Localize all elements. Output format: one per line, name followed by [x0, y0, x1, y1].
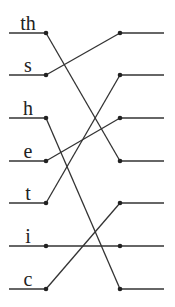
permutation-diagram: thshetic: [0, 0, 175, 307]
left-node-dot: [44, 31, 49, 36]
left-label: e: [24, 140, 33, 162]
left-node-dot: [44, 201, 49, 206]
left-label: c: [24, 268, 33, 290]
left-node-dot: [44, 287, 49, 292]
right-node-dot: [118, 287, 123, 292]
connection-line: [46, 33, 120, 161]
connection-line: [46, 75, 120, 203]
left-label: h: [23, 97, 33, 119]
right-node-dot: [118, 31, 123, 36]
right-node-dot: [118, 244, 123, 249]
connection-line: [46, 118, 120, 289]
left-label: th: [20, 12, 36, 34]
left-label: t: [25, 182, 31, 204]
right-node-dot: [118, 159, 123, 164]
right-node-dot: [118, 73, 123, 78]
left-label: s: [24, 54, 32, 76]
left-label: i: [25, 225, 31, 247]
connection-line: [46, 33, 120, 75]
left-node-dot: [44, 159, 49, 164]
left-node-dot: [44, 244, 49, 249]
right-node-dot: [118, 201, 123, 206]
left-node-dot: [44, 116, 49, 121]
right-node-dot: [118, 116, 123, 121]
left-node-dot: [44, 73, 49, 78]
